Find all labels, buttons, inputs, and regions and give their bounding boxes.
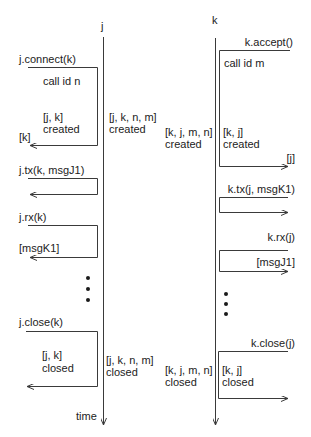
result-line2: created — [43, 123, 80, 135]
result-line1: [k, j] — [223, 126, 243, 138]
call-j-close: j.close(k) [j, k] closed — [18, 316, 98, 387]
call-label: j.close(k) — [18, 316, 63, 328]
result-line1: [j, k] — [42, 349, 62, 361]
return-label: [msgJ1] — [256, 256, 295, 268]
call-bracket — [28, 179, 98, 195]
k-state-created-2: created — [165, 138, 202, 150]
time-label: time — [76, 410, 97, 422]
j-state-created-1: [j, k, n, m] — [109, 111, 157, 123]
result-line1: [j, k] — [43, 111, 63, 123]
sequence-diagram: j k time j.connect(k) call id n [j, k] c… — [0, 0, 311, 437]
call-j-connect: j.connect(k) call id n [j, k] created [k… — [18, 53, 98, 146]
return-label: [k] — [19, 131, 31, 143]
call-note: call id m — [224, 57, 264, 69]
k-state-closed-1: [k, j, m, n] — [165, 364, 213, 376]
call-j-rx: j.rx(k) [msgK1] — [18, 211, 98, 258]
call-label: j.tx(k, msgJ1) — [18, 164, 84, 176]
call-label: k.rx(j) — [268, 231, 296, 243]
k-state-closed-2: closed — [165, 376, 197, 388]
call-k-tx: k.tx(j, msgK1) — [220, 183, 296, 213]
call-label: j.connect(k) — [18, 53, 76, 65]
call-label: j.rx(k) — [18, 211, 47, 223]
result-line1: [k, j] — [222, 364, 242, 376]
call-k-rx: k.rx(j) [msgJ1] — [220, 231, 296, 272]
lifeline-j-label: j — [100, 20, 103, 32]
ellipsis-dot — [86, 287, 90, 291]
j-state-closed-1: [j, k, n, m] — [106, 354, 154, 366]
call-note: call id n — [43, 75, 80, 87]
call-k-accept: k.accept() call id m [k, j] created [j] — [220, 36, 296, 167]
call-j-tx: j.tx(k, msgJ1) — [18, 164, 98, 195]
result-line2: closed — [42, 362, 74, 374]
call-label: k.accept() — [245, 36, 293, 48]
lifeline-k-label: k — [212, 14, 218, 26]
call-k-close: k.close(j) [k, j] closed — [219, 337, 296, 399]
call-bracket — [220, 198, 289, 213]
j-state-closed-2: closed — [106, 366, 138, 378]
ellipsis-dot — [224, 292, 228, 296]
call-label: k.close(j) — [251, 337, 295, 349]
ellipsis-right — [224, 292, 228, 316]
result-line2: created — [223, 138, 260, 150]
ellipsis-dot — [86, 298, 90, 302]
k-state-created-1: [k, j, m, n] — [165, 126, 213, 138]
ellipsis-dot — [224, 302, 228, 306]
return-label: [msgK1] — [19, 242, 59, 254]
result-line2: closed — [222, 376, 254, 388]
ellipsis-left — [86, 276, 90, 302]
call-label: k.tx(j, msgK1) — [228, 183, 295, 195]
ellipsis-dot — [86, 276, 90, 280]
j-state-created-2: created — [109, 123, 146, 135]
ellipsis-dot — [224, 312, 228, 316]
return-label: [j] — [286, 152, 295, 164]
